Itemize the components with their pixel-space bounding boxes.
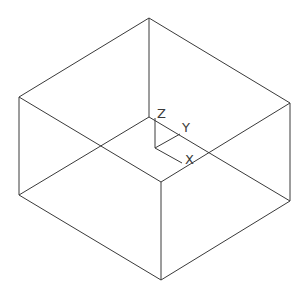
box-edge-bottom_right-bottom_front — [161, 201, 290, 280]
box-edge-bottom_back-bottom_right — [149, 117, 290, 201]
wireframe-box-diagram: Z Y X — [0, 0, 308, 297]
box-edge-top_left-top_front — [19, 97, 161, 182]
y-axis-line — [155, 134, 180, 148]
z-axis-label: Z — [157, 106, 166, 121]
x-axis-label: X — [185, 152, 194, 167]
box-edge-top_right-top_front — [161, 103, 290, 182]
box-edge-top_back-top_left — [19, 18, 149, 97]
box-edges — [19, 18, 290, 280]
box-edge-bottom_left-bottom_front — [19, 195, 161, 280]
box-edge-top_back-top_right — [149, 18, 290, 103]
ucs-axis-icon: Z Y X — [155, 106, 194, 167]
y-axis-label: Y — [181, 120, 190, 135]
x-axis-line — [155, 148, 182, 163]
box-edge-bottom_back-bottom_left — [19, 117, 149, 195]
